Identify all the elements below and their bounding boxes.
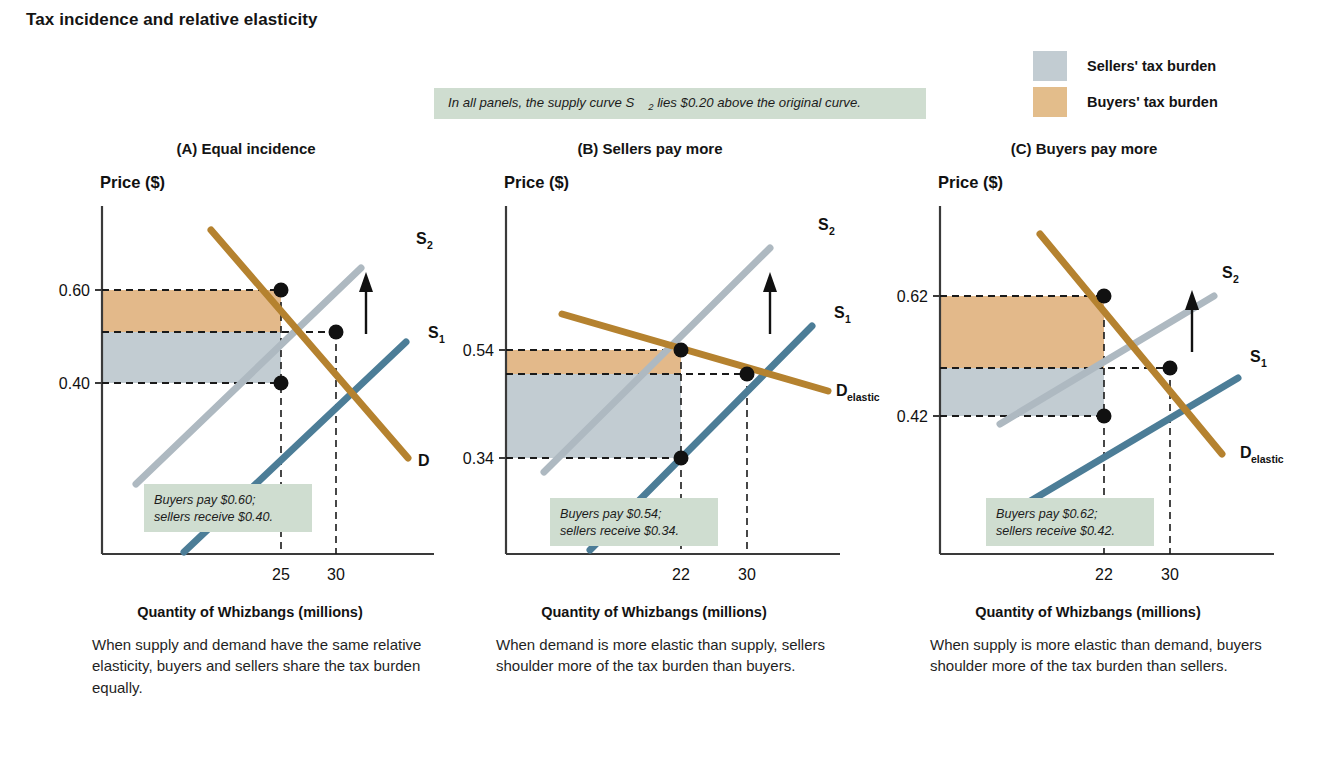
callout-box [986,498,1154,546]
legend-item-sellers-tax-burden: Sellers' tax burden [1033,48,1313,84]
callout-line-1: Buyers pay $0.60; [154,493,256,507]
curve-label-group-supply1-label: S1 [834,304,851,325]
panel-title-a: (A) Equal incidence [36,140,476,160]
legend-label-sellers-tax-burden: Sellers' tax burden [1087,58,1216,74]
supply2-label-subscript: 2 [1233,273,1239,285]
y-axis-title: Price ($) [504,173,569,191]
y-tick-label-0.40: 0.40 [59,375,90,392]
x-tick-label-22: 22 [1095,566,1113,583]
original-equilibrium-point [329,325,344,340]
curve-label-group-demand-elastic-label: Delastic [1240,444,1284,465]
y-tick-label-0.62: 0.62 [897,288,928,305]
legend: Sellers' tax burdenBuyers' tax burden [1033,48,1313,120]
curve-label-group-supply2-label: S2 [1222,264,1239,285]
new-equilibrium-point [274,283,289,298]
y-tick-label-0.60: 0.60 [59,282,90,299]
sellers-price-point [674,451,689,466]
plot-area-b: Price ($)0.540.342230S2S1DelasticBuyers … [440,166,880,596]
panel-caption-a: When supply and demand have the same rel… [36,634,476,698]
plot-area-a: Price ($)0.600.402530S2S1DBuyers pay $0.… [36,166,476,596]
panel-caption-c: When supply is more elastic than demand,… [874,634,1314,677]
callout-line-1: Buyers pay $0.62; [996,507,1098,521]
new-equilibrium-point [1097,289,1112,304]
sellers-price-point [1097,409,1112,424]
x-tick-label-30: 30 [1161,566,1179,583]
callout-line-2: sellers receive $0.42. [996,524,1115,538]
supply-shift-arrow-head [1185,290,1199,310]
x-axis-title-b: Quantity of Whizbangs (millions) [440,604,880,620]
figure-title: Tax incidence and relative elasticity [26,10,318,30]
supply-shift-arrow-head [763,272,777,292]
note-banner: In all panels, the supply curve S2 lies … [434,88,926,119]
legend-label-buyers-tax-burden: Buyers' tax burden [1087,94,1218,110]
supply1-label: S [1250,348,1261,365]
supply2-label: S [416,230,427,247]
x-axis-title-c: Quantity of Whizbangs (millions) [874,604,1314,620]
demand-elastic-label: D [1240,444,1252,461]
callout-line-2: sellers receive $0.34. [560,524,679,538]
legend-swatch-buyers-tax-burden [1033,87,1067,117]
curve-label-group-supply1-label: S1 [1250,348,1267,369]
note-banner-text: In all panels, the supply curve S2 lies … [434,95,861,113]
x-tick-label-22: 22 [672,566,690,583]
note-subscript: 2 [634,101,653,112]
curve-label-group-supply2-label: S2 [818,216,835,237]
demand-elastic-label: D [836,382,848,399]
panel-c: (C) Buyers pay morePrice ($)0.620.422230… [874,140,1314,677]
x-tick-label-30: 30 [738,566,756,583]
callout-box [144,484,312,532]
buyers-burden-band [940,296,1104,368]
supply-shift-arrow-head [359,272,373,292]
x-tick-label-30: 30 [327,566,345,583]
x-axis-title-a: Quantity of Whizbangs (millions) [36,604,476,620]
plot-area-c: Price ($)0.620.422230S2S1DelasticBuyers … [874,166,1314,596]
supply2-label: S [818,216,829,233]
legend-swatch-sellers-tax-burden [1033,51,1067,81]
y-tick-label-0.34: 0.34 [463,450,494,467]
callout-line-1: Buyers pay $0.54; [560,507,662,521]
y-tick-label-0.54: 0.54 [463,342,494,359]
original-equilibrium-point [1163,361,1178,376]
y-axis-title: Price ($) [100,173,165,191]
curve-label-group-supply2-label: S2 [416,230,433,251]
panel-title-c: (C) Buyers pay more [874,140,1314,160]
legend-item-buyers-tax-burden: Buyers' tax burden [1033,84,1313,120]
buyers-burden-band [102,290,281,332]
callout-line-2: sellers receive $0.40. [154,510,273,524]
callout-box [550,498,718,546]
panel-a: (A) Equal incidencePrice ($)0.600.402530… [36,140,476,698]
x-tick-label-25: 25 [272,566,290,583]
new-equilibrium-point [674,343,689,358]
demand-elastic-label-subscript: elastic [1251,453,1284,465]
y-tick-label-0.42: 0.42 [897,408,928,425]
supply1-label: S [834,304,845,321]
supply2-label-subscript: 2 [829,225,835,237]
supply1-label-subscript: 1 [845,313,851,325]
sellers-burden-band [506,374,681,458]
y-axis-title: Price ($) [938,173,1003,191]
panel-b: (B) Sellers pay morePrice ($)0.540.34223… [440,140,880,677]
original-equilibrium-point [740,367,755,382]
curve-label-group-demand-label: D [418,452,430,469]
panel-caption-b: When demand is more elastic than supply,… [440,634,880,677]
sellers-price-point [274,376,289,391]
supply1-label: S [428,324,439,341]
demand-label: D [418,452,430,469]
supply2-label-subscript: 2 [427,239,433,251]
supply1-label-subscript: 1 [1261,357,1267,369]
supply2-label: S [1222,264,1233,281]
panel-title-b: (B) Sellers pay more [440,140,880,160]
